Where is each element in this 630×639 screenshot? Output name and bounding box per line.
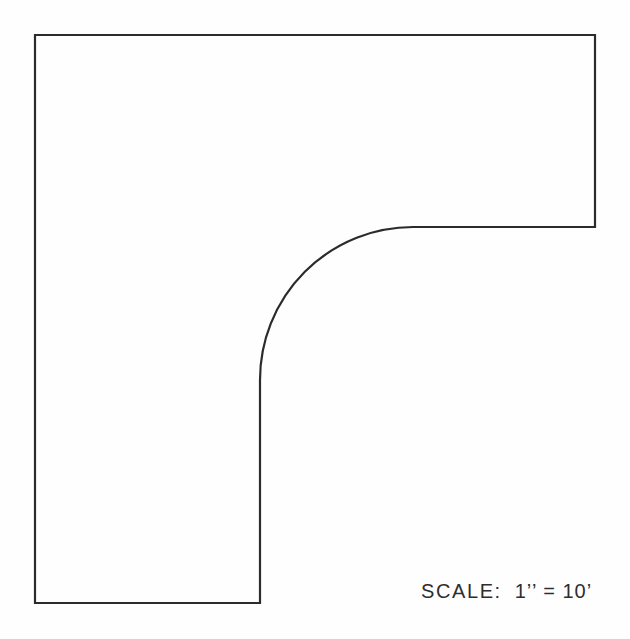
scale-note: SCALE: 1’’ = 10’ [421, 580, 592, 602]
drawing-canvas: SCALE: 1’’ = 10’ [0, 0, 630, 639]
site-plan-drawing [0, 0, 630, 639]
scale-label: SCALE: [421, 580, 502, 602]
l-shape-outline-path [35, 35, 595, 603]
scale-value: 1’’ = 10’ [515, 580, 592, 602]
